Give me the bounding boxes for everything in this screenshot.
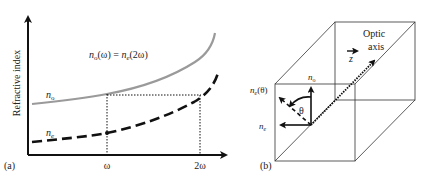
no-vector-label: no	[308, 72, 316, 83]
no-curve-label: no	[46, 89, 55, 102]
panel-b: z Optic axis no ne ne(θ) θ (b)	[250, 22, 415, 172]
optic-axis-label-line1: Optic	[363, 28, 386, 39]
z-label: z	[348, 53, 353, 64]
x-tick-2omega: 2ω	[194, 160, 206, 171]
ne-curve-label: ne	[46, 127, 54, 140]
optic-axis-label-line2: axis	[368, 41, 384, 52]
y-axis-label: Refractive index	[11, 50, 22, 116]
no-curve	[32, 33, 215, 104]
ne-theta-vector-label: ne(θ)	[250, 85, 267, 96]
optic-axis-arrow	[311, 61, 374, 125]
phase-matching-equation: no(ω) = ne(2ω)	[89, 49, 148, 62]
ne-theta-vector	[280, 98, 311, 125]
x-tick-omega: ω	[104, 160, 111, 171]
ne-point-omega	[105, 131, 109, 135]
ne-curve	[32, 73, 218, 142]
theta-label: θ	[299, 105, 304, 116]
crystal-box	[275, 22, 415, 161]
panel-a: Refractive index no ne no(ω) = ne(2ω) ω …	[4, 17, 226, 172]
panel-a-label: (a)	[4, 160, 15, 172]
figure: Refractive index no ne no(ω) = ne(2ω) ω …	[0, 0, 429, 178]
ne-vector-label: ne	[259, 121, 267, 132]
panel-b-label: (b)	[260, 160, 272, 172]
